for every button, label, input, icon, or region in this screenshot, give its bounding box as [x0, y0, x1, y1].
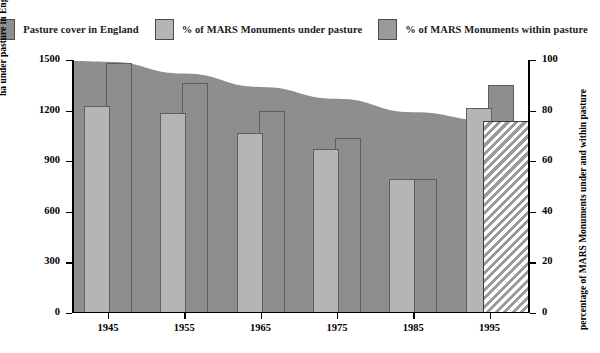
x-axis-tick [490, 313, 491, 319]
area-series-pasture-cover [72, 60, 530, 313]
y-axis-right-tick-label: 40 [542, 205, 582, 216]
y-axis-left-title: ha under pasture in England (000s) [0, 0, 8, 96]
y-axis-left-line [72, 60, 74, 313]
y-axis-left-tick [66, 313, 72, 314]
y-axis-right-tick-label: 0 [542, 306, 582, 317]
y-axis-left-tick-label: 300 [8, 255, 60, 266]
bar-under-pasture-1955 [160, 113, 186, 313]
y-axis-left-tick-label: 900 [8, 154, 60, 165]
y-axis-left-tick [66, 212, 72, 213]
y-axis-left-tick-label: 1200 [8, 104, 60, 115]
y-axis-left-tick [66, 161, 72, 162]
y-axis-right-tick-label: 20 [542, 255, 582, 266]
x-axis-tick-label: 1965 [231, 322, 291, 333]
x-axis-tick [337, 313, 338, 319]
x-axis-tick-label: 1955 [154, 322, 214, 333]
y-axis-right-tick [530, 161, 536, 162]
y-axis-left-tick-label: 1500 [8, 53, 60, 64]
x-axis-line [72, 312, 530, 314]
legend-item-under-pasture: % of MARS Monuments under pasture [155, 19, 363, 40]
legend-item-pasture-cover: Pasture cover in England [0, 19, 139, 40]
bar-under-pasture-1975 [313, 149, 339, 313]
y-axis-left-tick [66, 262, 72, 263]
x-axis-tick-label: 1995 [460, 322, 520, 333]
x-axis-tick [108, 313, 109, 319]
legend-label: % of MARS Monuments within pasture [405, 24, 588, 35]
x-axis-tick [261, 313, 262, 319]
y-axis-right-tick [530, 60, 536, 61]
y-axis-right-tick [530, 111, 536, 112]
legend-item-within-pasture: % of MARS Monuments within pasture [378, 19, 588, 40]
y-axis-right-tick [530, 212, 536, 213]
bar-under-pasture-1945 [84, 106, 110, 313]
chart-legend: Pasture cover in England % of MARS Monum… [0, 16, 600, 42]
y-axis-left-tick [66, 111, 72, 112]
y-axis-left-tick-label: 0 [8, 306, 60, 317]
y-axis-left-tick-label: 600 [8, 205, 60, 216]
x-axis-tick-label: 1975 [307, 322, 367, 333]
x-axis-tick [184, 313, 185, 319]
x-axis-tick [413, 313, 414, 319]
hatched-projection-block [483, 121, 529, 313]
chart-figure: Pasture cover in England % of MARS Monum… [0, 0, 600, 353]
y-axis-right-tick-label: 100 [542, 53, 582, 64]
y-axis-right-tick-label: 80 [542, 104, 582, 115]
legend-label: % of MARS Monuments under pasture [182, 24, 363, 35]
bar-under-pasture-1985 [389, 179, 415, 313]
legend-swatch-icon [378, 19, 397, 40]
y-axis-right-tick [530, 262, 536, 263]
y-axis-left-tick [66, 60, 72, 61]
plot-area: 0300600900120015000204060801001945195519… [72, 60, 530, 313]
x-axis-tick-label: 1985 [383, 322, 443, 333]
y-axis-right-tick-label: 60 [542, 154, 582, 165]
y-axis-right-line [528, 60, 530, 313]
bar-under-pasture-1965 [237, 133, 263, 313]
x-axis-tick-label: 1945 [78, 322, 138, 333]
y-axis-right-tick [530, 313, 536, 314]
y-axis-right-title: percentage of MARS Monuments under and w… [578, 30, 588, 330]
legend-swatch-icon [155, 19, 174, 40]
legend-label: Pasture cover in England [23, 24, 138, 35]
